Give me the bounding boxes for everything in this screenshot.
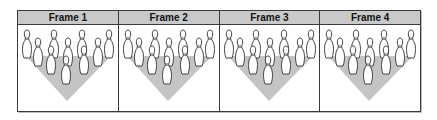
frame-header: Frame 2 [119, 11, 219, 25]
pins-diagram [119, 25, 219, 111]
bowling-pin-icon [364, 56, 373, 84]
bowling-pin-icon [162, 56, 171, 84]
pins-diagram [220, 25, 320, 111]
bowling-pin-icon [62, 56, 71, 84]
frames-table: Frame 1 Frame 2 Frame 3 Frame 4 [17, 10, 421, 112]
bowling-pin-icon [180, 46, 189, 74]
bowling-pin-icon [382, 46, 391, 74]
bowling-pin-icon [205, 30, 214, 58]
bowling-pin-icon [94, 38, 103, 66]
pin-deck [220, 25, 320, 111]
bowling-pin-icon [134, 38, 143, 66]
frame-2: Frame 2 [119, 11, 220, 111]
bowling-pin-icon [224, 30, 233, 58]
bowling-pin-icon [194, 38, 203, 66]
bowling-pin-icon [34, 38, 43, 66]
bowling-pin-icon [325, 30, 334, 58]
bowling-pin-icon [263, 56, 272, 84]
bowling-pin-icon [105, 30, 114, 58]
bowling-pin-icon [306, 30, 315, 58]
bowling-pin-icon [248, 46, 257, 74]
bowling-pin-icon [235, 38, 244, 66]
frame-4: Frame 4 [320, 11, 420, 111]
bowling-pin-icon [123, 30, 132, 58]
bowling-pin-icon [281, 46, 290, 74]
bowling-pin-icon [47, 46, 56, 74]
frame-header: Frame 3 [220, 11, 320, 25]
pin-deck [18, 25, 118, 111]
bowling-pin-icon [23, 30, 32, 58]
bowling-pin-icon [349, 46, 358, 74]
pins-diagram [320, 25, 420, 111]
pin-deck [320, 25, 420, 111]
bowling-pin-icon [396, 38, 405, 66]
pins-diagram [18, 25, 118, 111]
frame-header: Frame 4 [320, 11, 420, 25]
frame-header: Frame 1 [18, 11, 118, 25]
pin-deck [119, 25, 219, 111]
bowling-pin-icon [407, 30, 416, 58]
frame-1: Frame 1 [18, 11, 119, 111]
bowling-pin-icon [336, 38, 345, 66]
bowling-pin-icon [80, 46, 89, 74]
frame-3: Frame 3 [220, 11, 321, 111]
bowling-pin-icon [295, 38, 304, 66]
bowling-pin-icon [147, 46, 156, 74]
